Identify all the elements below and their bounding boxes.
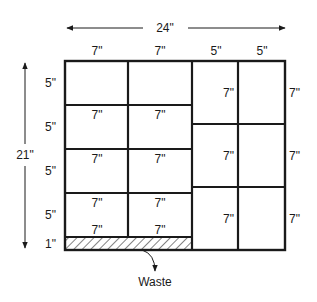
width-dimension: 24" (67, 21, 285, 35)
cutting-layout-diagram: 24" 21" 7" 7" 5" 5" 5" 5" 5" 5" 1" (0, 0, 317, 302)
right-piece-labels: 7" 7" 7" 7" 7" 7" (223, 86, 300, 226)
column-width-label: 7" (155, 44, 166, 58)
piece-width-label: 7" (155, 108, 166, 122)
height-dimension: 21" (16, 63, 34, 248)
left-section-grid (65, 61, 192, 237)
piece-height-label: 7" (223, 212, 234, 226)
right-section-grid (192, 61, 285, 250)
piece-width-label: 7" (155, 223, 166, 237)
piece-width-label: 7" (155, 152, 166, 166)
waste-pointer-arrow (142, 250, 155, 271)
piece-width-label: 7" (92, 108, 103, 122)
overall-width-label: 24" (156, 21, 174, 35)
piece-height-label: 7" (223, 86, 234, 100)
outer-height-label: 7" (289, 149, 300, 163)
row-height-labels: 5" 5" 5" 5" 1" (45, 76, 56, 251)
column-width-label: 5" (257, 44, 268, 58)
waste-label: Waste (138, 275, 172, 289)
row-height-label: 1" (45, 237, 56, 251)
row-height-label: 5" (45, 164, 56, 178)
overall-height-label: 21" (16, 148, 34, 162)
waste-strip (65, 237, 192, 250)
row-height-label: 5" (45, 120, 56, 134)
outer-height-label: 7" (289, 86, 300, 100)
piece-width-label: 7" (155, 196, 166, 210)
row-height-label: 5" (45, 76, 56, 90)
piece-width-label: 7" (92, 196, 103, 210)
row-height-label: 5" (45, 208, 56, 222)
column-width-label: 5" (211, 44, 222, 58)
piece-width-label: 7" (92, 152, 103, 166)
column-width-labels: 7" 7" 5" 5" (92, 44, 268, 58)
column-width-label: 7" (92, 44, 103, 58)
piece-height-label: 7" (223, 149, 234, 163)
piece-width-label: 7" (92, 223, 103, 237)
outer-height-label: 7" (289, 212, 300, 226)
waste-callout: Waste (138, 250, 172, 289)
